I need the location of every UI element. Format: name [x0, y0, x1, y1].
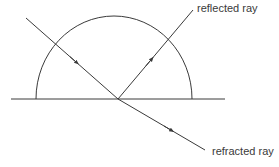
refracted-ray-label: refracted ray	[212, 146, 274, 157]
reflected-ray	[118, 10, 193, 99]
semicircle-block	[36, 16, 192, 99]
incident-arrow-icon	[70, 57, 77, 63]
ray-diagram	[0, 0, 279, 167]
reflected-arrow-icon	[146, 59, 152, 66]
refracted-ray	[118, 99, 205, 150]
refracted-arrow-icon	[164, 126, 172, 131]
reflected-ray-label: reflected ray	[197, 3, 258, 14]
